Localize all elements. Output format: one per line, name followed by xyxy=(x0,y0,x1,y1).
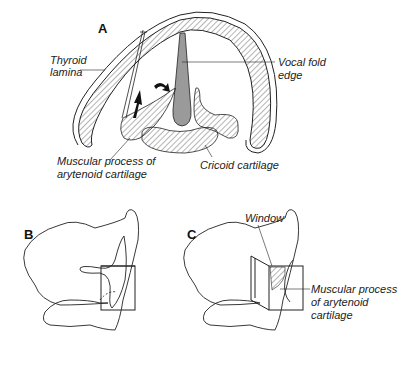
label-muscular-process-c-1: Muscular process xyxy=(311,283,397,295)
vocal-fold xyxy=(173,33,191,126)
curved-arrow-icon xyxy=(154,83,170,92)
label-muscular-process-c-3: cartilage xyxy=(311,309,353,321)
panel-a-letter: A xyxy=(98,21,107,36)
label-window: Window xyxy=(245,212,284,224)
label-muscular-process-a-2: arytenoid cartilage xyxy=(57,168,147,180)
window-hatch xyxy=(270,267,285,290)
label-thyroid-lamina-1: Thyroid xyxy=(50,54,87,66)
cricoid-cartilage xyxy=(142,127,218,153)
label-thyroid-lamina-2: lamina xyxy=(50,66,82,78)
panel-b-letter: B xyxy=(24,227,33,242)
label-cricoid-cartilage: Cricoid cartilage xyxy=(200,159,279,171)
label-muscular-process-c-2: of arytenoid xyxy=(311,296,368,308)
label-vocal-fold-1: Vocal fold xyxy=(278,56,326,68)
label-muscular-process-a-1: Muscular process of xyxy=(57,155,155,167)
label-vocal-fold-2: edge xyxy=(278,69,302,81)
panel-c-letter: C xyxy=(187,227,196,242)
panel-b-larynx-outline xyxy=(24,210,139,330)
